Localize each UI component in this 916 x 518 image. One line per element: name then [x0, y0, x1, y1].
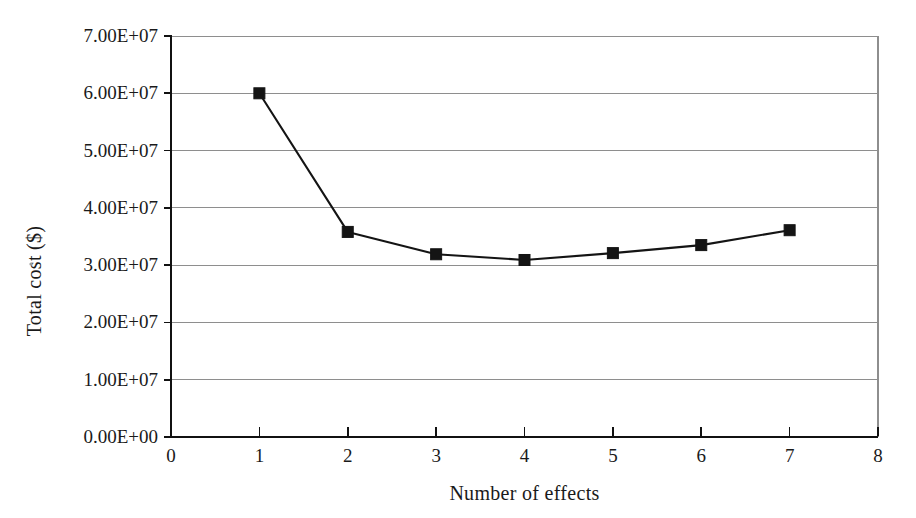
gridlines [171, 36, 878, 380]
axis-tickmarks [164, 36, 878, 437]
plot-frame [171, 36, 878, 437]
series-polyline [259, 93, 789, 260]
data-point-marker [431, 249, 442, 260]
data-point-marker [519, 254, 530, 265]
data-series-total-cost [254, 88, 795, 266]
data-point-marker [254, 88, 265, 99]
data-point-marker [342, 226, 353, 237]
data-point-marker [607, 248, 618, 259]
chart-figure: Total cost ($) Number of effects 0.00E+0… [0, 0, 916, 518]
plot-area [0, 0, 916, 518]
scan-speck [29, 262, 32, 265]
data-point-marker [784, 225, 795, 236]
data-point-marker [696, 240, 707, 251]
